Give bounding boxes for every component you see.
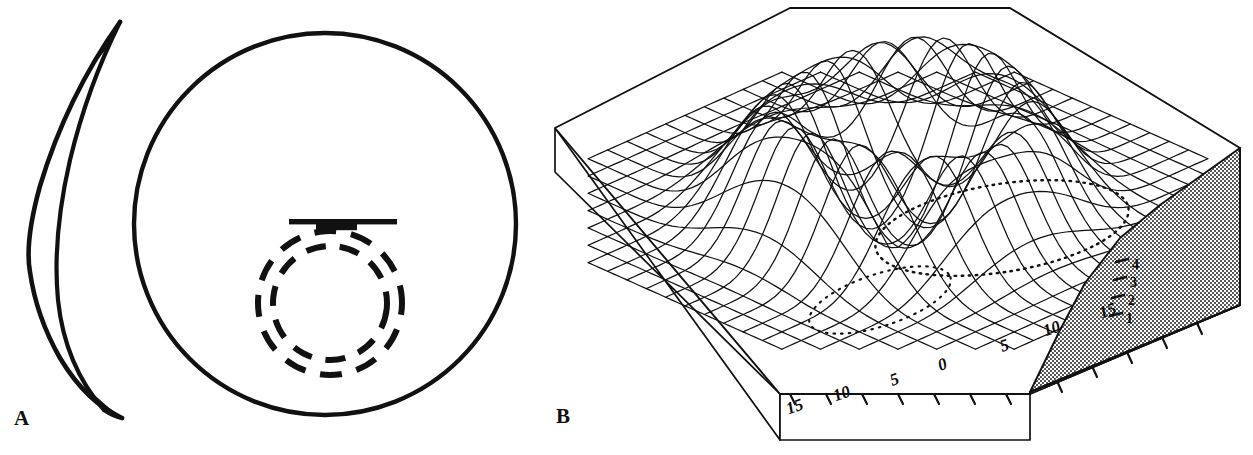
z-axis-tick-label: 4 xyxy=(1132,258,1139,272)
figure-artwork xyxy=(0,0,1253,455)
panel-label-b: B xyxy=(556,406,570,427)
scale-bar xyxy=(289,219,397,230)
panel-a-group xyxy=(28,22,516,418)
corneal-profile-crescent xyxy=(28,22,122,418)
z-axis-tick-label: 3 xyxy=(1130,276,1137,290)
z-axis-tick-label: 2 xyxy=(1128,294,1135,308)
dashed-ring-inner xyxy=(267,240,392,365)
z-axis-tick-label: 1 xyxy=(1126,312,1133,326)
panel-label-a: A xyxy=(14,408,29,429)
figure-root: A B 151050510154321 xyxy=(0,0,1253,455)
